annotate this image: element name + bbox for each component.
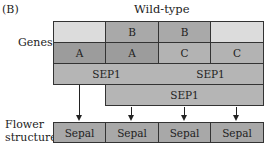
gene-cell-whorl4-b <box>210 21 264 43</box>
gene-cell-whorl1-b <box>53 21 106 43</box>
gene-cell-whorl2-a: A <box>105 42 159 64</box>
sep1-cell-lower: SEP1 <box>105 84 264 106</box>
flower-structure-label-line1: Flower <box>5 119 44 131</box>
sep1-cell-right: SEP1 <box>158 63 264 85</box>
structure-cell-whorl2: Sepal <box>105 122 159 143</box>
gene-cell-whorl3-c: C <box>158 42 211 64</box>
arrow-down-icon <box>79 85 80 116</box>
gene-cell-whorl1-a: A <box>53 42 106 64</box>
arrow-down-icon <box>236 107 237 116</box>
flower-structure-label-line2: structure <box>5 132 57 144</box>
arrow-down-icon <box>184 107 185 116</box>
gene-cell-whorl3-b: B <box>158 21 211 43</box>
structure-cell-whorl1: Sepal <box>53 122 106 143</box>
genes-label: Genes <box>18 37 53 49</box>
structure-cell-whorl4: Sepal <box>210 122 264 143</box>
diagram-title: Wild-type <box>134 3 190 15</box>
sep1-cell-left: SEP1 <box>53 63 159 85</box>
panel-label: (B) <box>2 4 19 16</box>
gene-cell-whorl4-c: C <box>210 42 264 64</box>
structure-cell-whorl3: Sepal <box>158 122 211 143</box>
arrow-down-icon <box>131 107 132 116</box>
gene-cell-whorl2-b: B <box>105 21 159 43</box>
